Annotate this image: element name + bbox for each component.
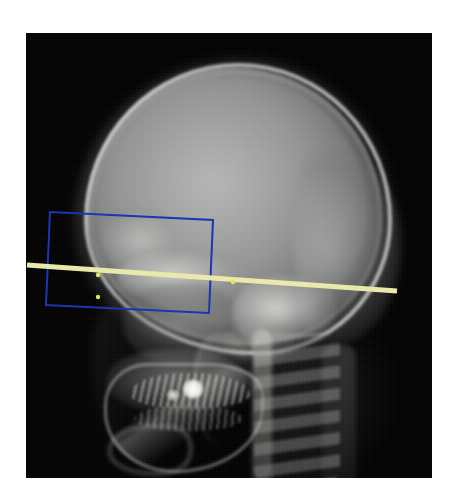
region-of-interest-box[interactable] xyxy=(46,212,213,313)
cephalometric-reference-line[interactable] xyxy=(27,265,397,291)
landmark-point-3[interactable] xyxy=(231,280,235,284)
radiograph-viewer[interactable] xyxy=(0,0,455,496)
landmark-point-1[interactable] xyxy=(96,273,100,277)
landmark-point-2[interactable] xyxy=(96,295,100,299)
annotation-overlay[interactable] xyxy=(0,0,455,496)
